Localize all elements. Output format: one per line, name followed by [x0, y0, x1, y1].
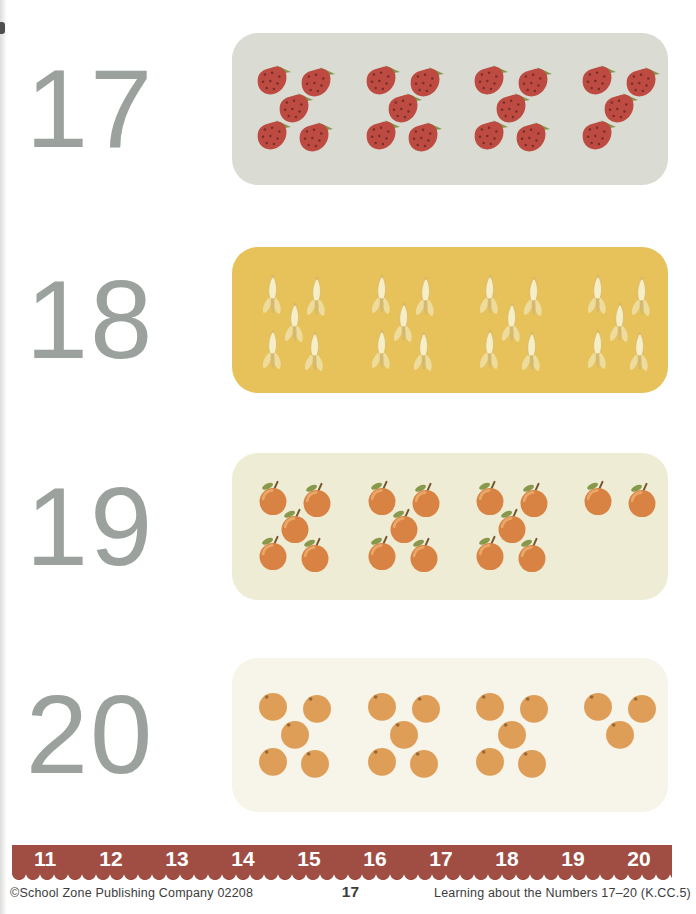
strawberry-group-of-4 — [576, 62, 664, 156]
banana-icon — [253, 328, 291, 370]
number-row-18: 18 — [0, 247, 696, 393]
apple-group-of-2 — [576, 480, 664, 574]
orange-icon — [253, 743, 293, 779]
strawberry-icon — [404, 119, 444, 155]
banana — [362, 328, 400, 370]
number-line-value-16: 16 — [342, 845, 408, 873]
apple — [470, 535, 510, 571]
numeral-20: 20 — [0, 692, 180, 778]
number-line-value-20: 20 — [606, 845, 672, 873]
banana-icon — [362, 328, 400, 370]
orange-group-of-3 — [576, 688, 664, 782]
apple-icon — [295, 537, 335, 573]
banana — [295, 330, 333, 372]
apple-group-of-5 — [360, 480, 448, 574]
orange-icon — [362, 743, 402, 779]
banana-group-of-5 — [360, 273, 448, 367]
numeral-17: 17 — [0, 66, 180, 152]
strawberry-group-of-5 — [251, 62, 339, 156]
strawberry — [295, 119, 335, 155]
apple-group-of-5 — [251, 480, 339, 574]
apple-icon — [578, 480, 618, 516]
apples-panel — [232, 453, 668, 600]
strawberry — [404, 119, 444, 155]
number-line-value-18: 18 — [474, 845, 540, 873]
numeral-18: 18 — [0, 277, 180, 363]
apple — [578, 480, 618, 516]
strawberries-panel — [232, 33, 668, 185]
banana — [253, 328, 291, 370]
banana-icon — [470, 328, 508, 370]
strawberry-group-of-5 — [360, 62, 448, 156]
apple-icon — [362, 535, 402, 571]
orange — [362, 743, 402, 779]
apple — [362, 535, 402, 571]
strawberry — [512, 119, 552, 155]
number-line-value-14: 14 — [210, 845, 276, 873]
strawberry — [470, 117, 510, 153]
number-line-value-17: 17 — [408, 845, 474, 873]
strawberry — [578, 117, 618, 153]
orange-icon — [404, 745, 444, 781]
number-row-20: 20 — [0, 658, 696, 812]
numeral-19: 19 — [0, 484, 180, 570]
number-line-bar: 11121314151617181920 — [12, 845, 672, 873]
strawberry-icon — [470, 117, 510, 153]
number-line-value-19: 19 — [540, 845, 606, 873]
number-row-17: 17 — [0, 33, 696, 185]
banana — [578, 328, 616, 370]
orange — [600, 716, 640, 752]
orange-icon — [470, 743, 510, 779]
orange — [404, 745, 444, 781]
banana-group-of-5 — [576, 273, 664, 367]
number-line-scalloped-edge — [12, 873, 672, 881]
banana-icon — [578, 328, 616, 370]
number-line-value-12: 12 — [78, 845, 144, 873]
bananas-panel — [232, 247, 668, 393]
strawberry-icon — [512, 119, 552, 155]
apple — [404, 537, 444, 573]
strawberry-icon — [578, 117, 618, 153]
number-row-19: 19 — [0, 453, 696, 600]
oranges-panel — [232, 658, 668, 812]
banana — [404, 330, 442, 372]
orange-icon — [512, 745, 552, 781]
strawberry-icon — [362, 117, 402, 153]
orange — [295, 745, 335, 781]
apple-icon — [253, 535, 293, 571]
copyright-text: ©School Zone Publishing Company 02208 — [0, 886, 342, 900]
banana-icon — [512, 330, 550, 372]
apple — [295, 537, 335, 573]
apple — [622, 482, 662, 518]
banana — [512, 330, 550, 372]
number-line-value-11: 11 — [12, 845, 78, 873]
standard-reference: Learning about the Numbers 17–20 (K.CC.5… — [359, 886, 696, 900]
banana — [620, 330, 658, 372]
apple-icon — [470, 535, 510, 571]
footer: ©School Zone Publishing Company 02208 17… — [0, 883, 696, 901]
page-number: 17 — [342, 883, 360, 901]
orange-icon — [295, 745, 335, 781]
banana-group-of-5 — [251, 273, 339, 367]
number-line-value-13: 13 — [144, 845, 210, 873]
strawberry — [253, 117, 293, 153]
banana-icon — [295, 330, 333, 372]
banana-icon — [404, 330, 442, 372]
apple-icon — [512, 537, 552, 573]
orange — [253, 743, 293, 779]
banana — [470, 328, 508, 370]
banana-group-of-5 — [468, 273, 556, 367]
worksheet-page: 17 — [0, 0, 696, 914]
apple-group-of-5 — [468, 480, 556, 574]
orange-group-of-5 — [360, 688, 448, 782]
orange-group-of-5 — [251, 688, 339, 782]
orange-icon — [600, 716, 640, 752]
number-line-value-15: 15 — [276, 845, 342, 873]
apple — [253, 535, 293, 571]
orange-group-of-5 — [468, 688, 556, 782]
strawberry-group-of-5 — [468, 62, 556, 156]
banana-icon — [620, 330, 658, 372]
orange — [470, 743, 510, 779]
apple — [512, 537, 552, 573]
strawberry — [362, 117, 402, 153]
